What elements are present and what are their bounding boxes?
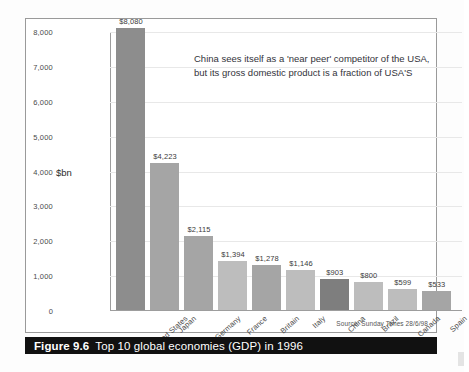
bar-group[interactable]: $599 (388, 289, 417, 310)
y-axis-tick-label: 4,000 (7, 167, 53, 176)
y-axis-title: $bn (56, 166, 72, 177)
bar[interactable] (116, 28, 145, 310)
gridline (110, 32, 462, 33)
bar-group[interactable]: $1,146 (286, 270, 315, 310)
bar[interactable] (184, 236, 213, 310)
bar-group[interactable]: $8,080 (116, 28, 145, 310)
bar-value-label: $1,146 (289, 259, 313, 268)
bar[interactable] (286, 270, 315, 310)
bar[interactable] (252, 265, 281, 310)
x-axis-category-label: France (245, 314, 269, 337)
bar-value-label: $800 (360, 271, 377, 280)
x-axis-category-label: Spain (448, 314, 469, 334)
x-axis-category-label: Italy (311, 314, 328, 330)
bar-value-label: $2,115 (187, 225, 210, 234)
bar-value-label: $533 (428, 280, 445, 289)
bar-value-label: $903 (326, 268, 343, 277)
y-axis-tick-label: 2,000 (7, 237, 53, 246)
bar-value-label: $1,278 (255, 254, 279, 263)
figure-caption-number: Figure 9.6 (34, 340, 89, 352)
y-axis-tick-label: 6,000 (7, 97, 53, 106)
bar-group[interactable]: $1,278 (252, 265, 281, 310)
bar[interactable] (218, 261, 247, 310)
bar-group[interactable]: $4,223 (150, 163, 179, 310)
page-edge-artifact (458, 352, 464, 366)
bar-group[interactable]: $533 (422, 291, 451, 310)
y-axis-tick-label: 7,000 (7, 62, 53, 71)
bar-group[interactable]: $1,394 (218, 261, 247, 310)
gridline (110, 102, 462, 103)
bar[interactable] (354, 282, 383, 310)
figure-frame: China sees itself as a 'near peer' compe… (25, 18, 437, 333)
y-axis-tick-label: 3,000 (7, 202, 53, 211)
bar-group[interactable]: $2,115 (184, 236, 213, 310)
gridline (110, 137, 462, 138)
x-axis-baseline (110, 310, 462, 311)
gridline (110, 67, 462, 68)
x-axis-category-label: Britain (279, 314, 301, 335)
y-axis-tick-label: 5,000 (7, 132, 53, 141)
bar[interactable] (320, 279, 349, 310)
y-axis-tick-label: 8,000 (7, 28, 53, 37)
bar-value-label: $1,394 (221, 250, 245, 259)
bar[interactable] (422, 291, 451, 310)
figure-caption-bar: Figure 9.6 Top 10 global economies (GDP)… (25, 337, 437, 354)
figure-caption-text: Top 10 global economies (GDP) in 1996 (95, 340, 303, 352)
y-axis-tick-label: 0 (7, 307, 53, 316)
bar-group[interactable]: $800 (354, 282, 383, 310)
bar-value-label: $8,080 (119, 17, 143, 26)
plot-area: $8,080$4,223$2,115$1,394$1,278$1,146$903… (110, 32, 462, 311)
bar-group[interactable]: $903 (320, 279, 349, 310)
bar[interactable] (388, 289, 417, 310)
bar-value-label: $599 (394, 278, 411, 287)
bar[interactable] (150, 163, 179, 310)
y-axis-tick-label: 1,000 (7, 272, 53, 281)
bar-value-label: $4,223 (153, 152, 177, 161)
